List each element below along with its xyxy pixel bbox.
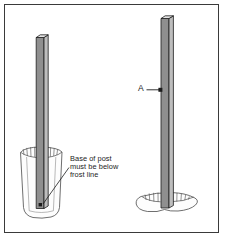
- frost-line-caption: Base of post must be below frost line: [70, 155, 118, 180]
- callout-a-leader-line: [147, 88, 163, 92]
- post-base-marker: [39, 203, 42, 206]
- frost-line-caption-line-3: frost line: [70, 171, 118, 179]
- post-set-in-shallow-hole: [161, 16, 173, 208]
- callout-label-a: A: [138, 84, 144, 92]
- figure-container: Base of post must be below frost line A: [0, 0, 225, 239]
- illustration-artwork: [0, 0, 225, 239]
- post-set-below-frost-line: [36, 35, 48, 209]
